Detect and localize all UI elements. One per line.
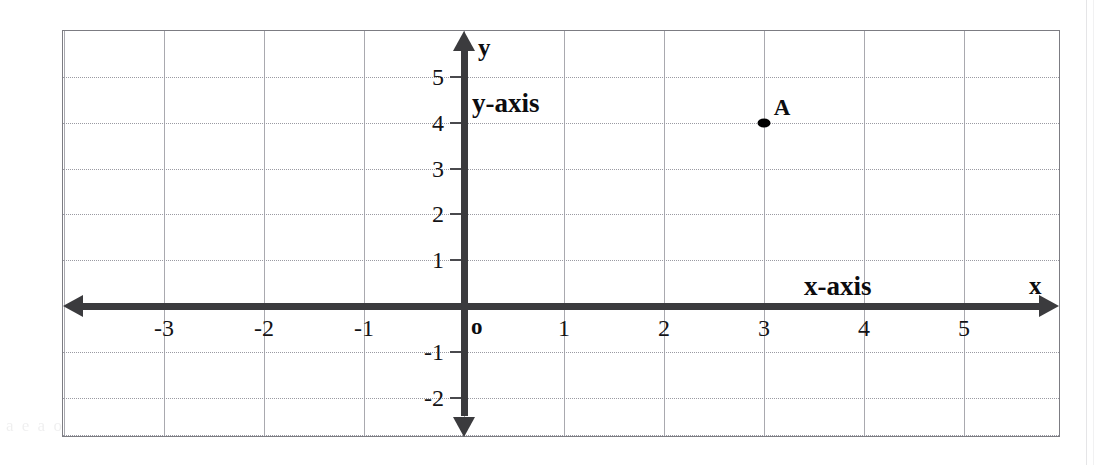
y-tick-mark: [450, 351, 461, 353]
vertical-gridline: [564, 31, 565, 436]
vertical-gridline: [664, 31, 665, 436]
coordinate-plane-figure: a e a o t a a e e t -3-2-11234554321-1-2…: [0, 0, 1108, 465]
x-axis-right-arrow: [1039, 295, 1059, 317]
y-axis-name-label: y-axis: [472, 90, 540, 117]
y-tick-mark: [450, 397, 461, 399]
scan-edge-line-secondary: [1093, 0, 1094, 465]
horizontal-gridline: [63, 398, 1059, 399]
horizontal-gridline: [63, 260, 1059, 261]
x-tick-label: -2: [254, 316, 274, 340]
y-tick-label: -2: [424, 386, 444, 410]
y-tick-label: 4: [432, 111, 444, 135]
x-tick-label: 2: [658, 316, 670, 340]
horizontal-gridline: [63, 169, 1059, 170]
y-tick-label: 5: [432, 65, 444, 89]
y-tick-mark: [450, 122, 461, 124]
horizontal-gridline: [63, 123, 1059, 124]
vertical-gridline: [264, 31, 265, 436]
y-tick-mark: [450, 259, 461, 261]
y-tick-mark: [450, 213, 461, 215]
x-tick-label: -3: [154, 316, 174, 340]
horizontal-gridline: [63, 214, 1059, 215]
vertical-gridline: [164, 31, 165, 436]
x-tick-label: 3: [758, 316, 770, 340]
horizontal-gridline: [63, 352, 1059, 353]
y-axis-letter-label: y: [478, 35, 491, 60]
scan-edge-line: [1086, 0, 1087, 465]
y-axis-up-arrow: [453, 31, 475, 51]
data-point-marker: [758, 118, 771, 127]
y-tick-label: 2: [432, 202, 444, 226]
y-tick-label: 1: [432, 248, 444, 272]
x-axis-left-arrow: [63, 295, 83, 317]
origin-label: o: [471, 315, 483, 338]
vertical-gridline: [364, 31, 365, 436]
y-axis-down-arrow: [453, 417, 475, 437]
horizontal-gridline: [63, 77, 1059, 78]
horizontal-gridline: [63, 435, 1059, 436]
y-tick-mark: [450, 168, 461, 170]
y-axis-line: [461, 47, 468, 416]
x-tick-label: 5: [958, 316, 970, 340]
plot-area: -3-2-11234554321-1-2oy-axisx-axisyxA: [62, 30, 1060, 437]
vertical-gridline: [964, 31, 965, 436]
x-tick-label: 1: [558, 316, 570, 340]
vertical-gridline: [864, 31, 865, 436]
data-point-label: A: [774, 96, 791, 119]
x-tick-label: 4: [858, 316, 870, 340]
x-axis-name-label: x-axis: [804, 273, 872, 300]
vertical-gridline: [64, 31, 65, 436]
x-tick-label: -1: [354, 316, 374, 340]
y-tick-label: 3: [432, 157, 444, 181]
vertical-gridline: [764, 31, 765, 436]
y-tick-mark: [450, 76, 461, 78]
y-tick-label: -1: [424, 340, 444, 364]
x-axis-line: [81, 303, 1039, 310]
x-axis-letter-label: x: [1029, 273, 1042, 298]
